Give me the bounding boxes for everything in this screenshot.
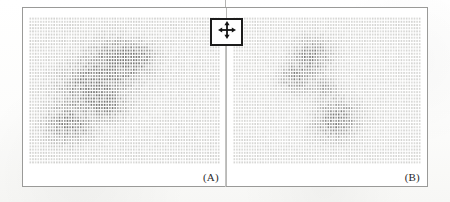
move-cursor-widget[interactable] [210, 18, 243, 46]
panel-b: (B) [226, 8, 427, 186]
panel-b-plot-area [233, 17, 421, 164]
panel-a: (A) [23, 8, 226, 186]
panel-a-label: (A) [203, 172, 219, 183]
panel-b-label: (B) [405, 172, 420, 183]
panel-divider-line [225, 46, 226, 187]
panel-divider-tick-top [225, 0, 226, 7]
figure-root: (A) (B) [0, 0, 450, 202]
panel-b-dot-matrix [233, 17, 421, 164]
panel-a-plot-area [29, 17, 220, 164]
move-four-way-arrow-icon [217, 20, 237, 44]
panel-a-dot-matrix [29, 17, 220, 164]
